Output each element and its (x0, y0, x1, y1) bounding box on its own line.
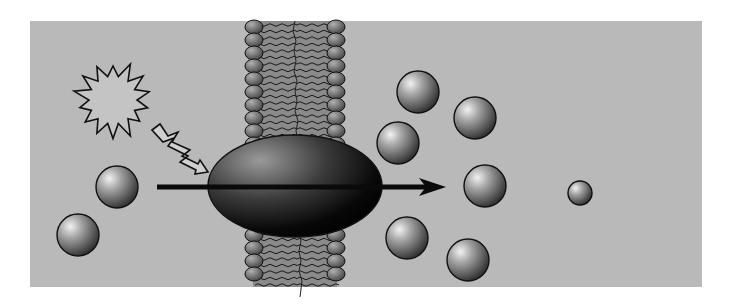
phospholipid-head (245, 98, 263, 112)
phospholipid-head (327, 124, 345, 138)
phospholipid-head (245, 46, 263, 60)
phospholipid-head (245, 254, 263, 268)
molecule-sphere (568, 181, 592, 205)
molecule-sphere (397, 71, 439, 113)
phospholipid-head (245, 20, 263, 34)
phospholipid-head (327, 111, 345, 125)
zigzag-arrow-icon (152, 124, 208, 174)
phospholipid-head (327, 59, 345, 73)
molecule-sphere (57, 214, 99, 256)
molecule-sphere (447, 239, 489, 281)
phospholipid-head (245, 59, 263, 73)
phospholipid-head (245, 124, 263, 138)
phospholipid-head (245, 267, 263, 281)
molecule-sphere (454, 97, 496, 139)
phospholipid-head (327, 33, 345, 47)
phospholipid-head (327, 85, 345, 99)
phospholipid-head (245, 33, 263, 47)
diagram-stage (0, 0, 729, 305)
phospholipid-head (245, 72, 263, 86)
signal-starburst-icon (74, 64, 149, 139)
phospholipid-head (245, 85, 263, 99)
phospholipid-head (245, 241, 263, 255)
molecule-sphere (377, 122, 419, 164)
phospholipid-head (327, 46, 345, 60)
molecule-sphere (96, 166, 138, 208)
phospholipid-head (327, 267, 345, 281)
phospholipid-head (327, 98, 345, 112)
phospholipid-head (327, 254, 345, 268)
membrane-transport-diagram (0, 0, 729, 305)
starburst-shape (74, 64, 149, 139)
molecule-sphere (464, 165, 506, 207)
phospholipid-head (327, 72, 345, 86)
molecule-sphere (386, 217, 428, 259)
phospholipid-head (327, 241, 345, 255)
phospholipid-head (245, 111, 263, 125)
phospholipid-head (327, 20, 345, 34)
